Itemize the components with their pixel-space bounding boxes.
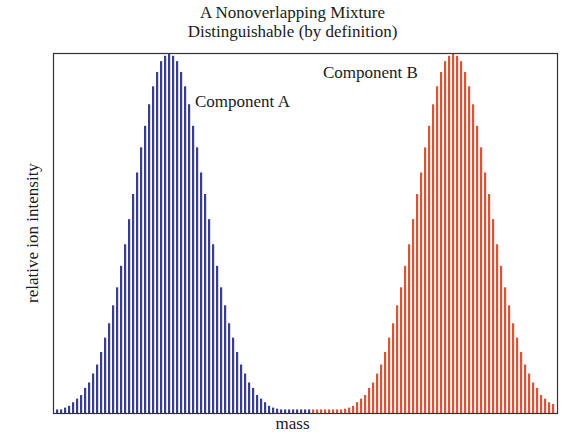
bar — [104, 338, 106, 413]
bar — [200, 172, 202, 413]
bar — [220, 287, 222, 413]
bar — [112, 305, 114, 413]
bar — [368, 388, 370, 413]
bar — [384, 352, 386, 413]
bar — [240, 365, 242, 413]
bar — [228, 323, 230, 413]
bar — [116, 287, 118, 413]
bar — [84, 388, 86, 413]
bar — [388, 338, 390, 413]
bar — [136, 172, 138, 413]
bar — [60, 409, 62, 413]
bar — [400, 287, 402, 413]
bar — [176, 61, 178, 413]
bar — [100, 352, 102, 413]
bar — [164, 56, 166, 413]
bar — [128, 219, 130, 413]
bar — [204, 194, 206, 413]
bar — [80, 395, 82, 413]
bar — [288, 409, 290, 413]
bar — [304, 409, 306, 413]
bar — [308, 409, 310, 413]
bar — [464, 72, 466, 413]
bar — [552, 404, 554, 413]
bar — [508, 305, 510, 413]
bar — [264, 402, 266, 413]
bar — [412, 219, 414, 413]
bar — [380, 365, 382, 413]
bar — [184, 86, 186, 413]
bar — [324, 409, 326, 413]
bar — [468, 86, 470, 413]
bar — [172, 56, 174, 413]
bar — [444, 61, 446, 413]
bar — [460, 61, 462, 413]
bar — [500, 266, 502, 413]
bar — [348, 408, 350, 413]
annotation-component-a: Component A — [195, 92, 291, 111]
bar — [544, 399, 546, 413]
bar — [488, 194, 490, 413]
bar — [472, 104, 474, 413]
bar — [408, 244, 410, 413]
bar — [180, 72, 182, 413]
annotation-component-b: Component B — [323, 63, 418, 82]
bar — [448, 56, 450, 413]
bar — [272, 408, 274, 413]
bar — [68, 406, 70, 413]
bar — [316, 409, 318, 413]
bar — [152, 86, 154, 413]
bar — [284, 409, 286, 413]
bar — [372, 382, 374, 413]
bar — [292, 409, 294, 413]
bar — [260, 399, 262, 413]
bar — [548, 402, 550, 413]
bar — [72, 402, 74, 413]
bar — [540, 395, 542, 413]
bar — [328, 409, 330, 413]
bar — [520, 352, 522, 413]
bar — [140, 147, 142, 413]
bar — [356, 402, 358, 413]
bar — [268, 406, 270, 413]
bar — [244, 374, 246, 413]
bar — [452, 54, 454, 413]
bar — [432, 104, 434, 413]
bar — [168, 54, 170, 413]
bar — [504, 287, 506, 413]
bar — [56, 409, 58, 413]
bar — [392, 323, 394, 413]
bar — [156, 72, 158, 413]
bar — [108, 323, 110, 413]
bar — [512, 323, 514, 413]
bar — [144, 126, 146, 413]
bar — [496, 244, 498, 413]
bar — [280, 409, 282, 413]
bar — [532, 382, 534, 413]
bar — [256, 395, 258, 413]
bar — [524, 365, 526, 413]
bar — [344, 409, 346, 413]
bar — [64, 408, 66, 413]
plot-area: Component A Component B — [0, 0, 585, 448]
bar — [436, 86, 438, 413]
bar — [528, 374, 530, 413]
bar — [216, 266, 218, 413]
bar — [536, 388, 538, 413]
bar — [476, 126, 478, 413]
bar — [192, 126, 194, 413]
bar — [208, 219, 210, 413]
bar — [236, 352, 238, 413]
bar — [456, 56, 458, 413]
bar — [296, 409, 298, 413]
bar — [320, 409, 322, 413]
bar — [232, 338, 234, 413]
bar — [248, 382, 250, 413]
bar — [76, 399, 78, 413]
bar — [300, 409, 302, 413]
bar — [252, 388, 254, 413]
bar — [332, 409, 334, 413]
bar — [160, 61, 162, 413]
bar — [484, 172, 486, 413]
y-axis-label: relative ion intensity — [23, 163, 43, 303]
